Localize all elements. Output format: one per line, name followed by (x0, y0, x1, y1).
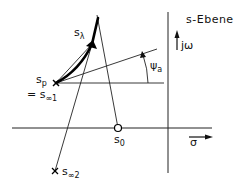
label-s-inf2: s∞2 (62, 166, 80, 177)
label-s-lambda: sλ (74, 27, 84, 38)
plane-title: s-Ebene (186, 14, 234, 25)
label-s-0: s0 (114, 134, 125, 145)
label-s-inf1: = s∞1 (27, 89, 57, 100)
s-0-zero-icon (115, 125, 122, 132)
angle-arc (143, 55, 148, 83)
s-inf2-pole-icon (52, 168, 58, 174)
jw-arrow-icon (175, 30, 180, 50)
imag-axis-label: jω (181, 40, 193, 51)
line-to-s0 (97, 15, 118, 128)
real-axis-label: σ (190, 137, 197, 148)
line-to-sinf2 (55, 44, 92, 171)
label-psi-a: ψa (150, 60, 162, 71)
label-s-p: sp (36, 74, 47, 85)
